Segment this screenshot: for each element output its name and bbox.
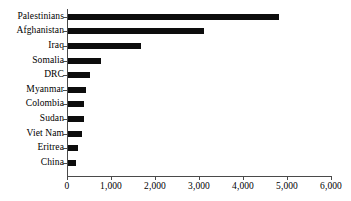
x-axis-tick [331,176,332,180]
y-axis-tick [63,90,67,91]
category-label: China [41,158,64,168]
x-axis-tick [199,176,200,180]
y-axis-tick [63,119,67,120]
bar-row: Myanmar [0,83,351,98]
x-axis-tick-label: 5,000 [276,182,298,192]
bar [68,58,101,64]
bar-row: China [0,156,351,171]
bar-row: Eritrea [0,141,351,156]
y-axis-tick [63,61,67,62]
bar-row: Colombia [0,97,351,112]
x-axis-tick-label: 6,000 [320,182,342,192]
x-axis-tick [155,176,156,180]
category-label: Viet Nam [27,129,64,139]
bar [68,101,84,107]
bar-chart: PalestiniansAfghanistanIraqSomaliaDRCMya… [0,0,351,201]
bar [68,116,84,122]
x-axis-tick-label: 1,000 [100,182,122,192]
bar [68,72,90,78]
category-label: Colombia [26,100,64,110]
category-label: Iraq [48,41,64,51]
y-axis-tick [63,31,67,32]
category-label: Eritrea [37,143,64,153]
bar [68,131,82,137]
bar [68,160,76,166]
y-axis-tick [63,17,67,18]
bar-row: Somalia [0,53,351,68]
x-axis-tick [111,176,112,180]
bar [68,145,78,151]
y-axis-tick [63,46,67,47]
x-axis-tick-label: 4,000 [232,182,254,192]
x-axis-tick [287,176,288,180]
x-axis-tick-label: 0 [65,182,70,192]
category-label: Palestinians [17,12,64,22]
category-label: Somalia [32,56,64,66]
bar-row: Palestinians [0,10,351,25]
x-axis-tick-label: 2,000 [144,182,166,192]
x-axis-tick-label: 3,000 [188,182,210,192]
y-axis-tick [63,134,67,135]
x-axis-tick [67,176,68,180]
bar-row: Iraq [0,39,351,54]
category-label: Myanmar [26,85,64,95]
y-axis-tick [63,75,67,76]
category-label: Afghanistan [16,27,64,37]
bar [68,14,279,20]
bar [68,28,204,34]
bar [68,87,86,93]
y-axis-tick [63,104,67,105]
bar-row: DRC [0,68,351,83]
y-axis-tick [63,148,67,149]
bar-row: Afghanistan [0,24,351,39]
bar [68,43,141,49]
category-label: DRC [44,70,64,80]
category-label: Sudan [40,114,64,124]
y-axis-tick [63,163,67,164]
bar-row: Viet Nam [0,126,351,141]
plot-area: PalestiniansAfghanistanIraqSomaliaDRCMya… [0,0,351,201]
x-axis-tick [243,176,244,180]
bar-row: Sudan [0,112,351,127]
